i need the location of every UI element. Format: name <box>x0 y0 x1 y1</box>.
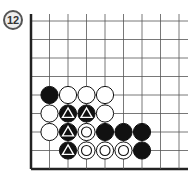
black-stone <box>133 123 150 140</box>
white-stone <box>59 86 76 103</box>
go-diagram: 12 <box>0 0 196 181</box>
white-stone <box>96 105 113 122</box>
black-stone <box>96 123 113 140</box>
white-stone <box>96 86 113 103</box>
black-stone <box>133 142 150 159</box>
black-stone <box>115 123 132 140</box>
white-stone <box>78 123 95 140</box>
white-stone <box>41 123 58 140</box>
black-stone <box>41 86 58 103</box>
white-stone <box>78 142 95 159</box>
white-stone <box>96 142 113 159</box>
white-stone <box>41 105 58 122</box>
white-stone <box>78 86 95 103</box>
white-stone <box>115 142 132 159</box>
go-board <box>0 0 196 181</box>
